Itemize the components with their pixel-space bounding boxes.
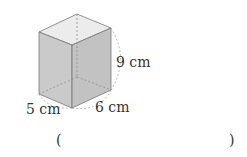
answer-close-paren: )	[229, 133, 234, 147]
left-face	[39, 32, 72, 108]
height-label: 9 cm	[116, 55, 150, 69]
answer-open-paren: (	[56, 133, 61, 147]
depth-label: 5 cm	[26, 102, 60, 116]
answer-blank[interactable]	[66, 133, 226, 149]
width-label: 6 cm	[95, 100, 129, 114]
